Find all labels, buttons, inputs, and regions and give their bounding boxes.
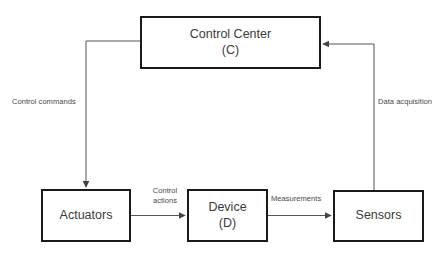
node-actuators[interactable]: Actuators	[41, 189, 131, 242]
edge-label-measurements: Measurements	[271, 194, 321, 204]
node-device-title: Device	[208, 200, 246, 215]
node-control-center-subtitle: (C)	[222, 43, 239, 58]
edge-data-acquisition	[323, 44, 374, 190]
control-loop-diagram: Control Center (C) Actuators Device (D) …	[0, 0, 446, 257]
edge-label-control-actions: Control actions	[145, 186, 185, 206]
node-sensors-title: Sensors	[356, 208, 402, 223]
edge-control-commands	[86, 41, 140, 187]
node-control-center-title: Control Center	[190, 27, 271, 42]
edge-label-data-acquisition: Data acquisition	[378, 97, 432, 107]
node-device[interactable]: Device (D)	[187, 189, 268, 242]
node-control-center[interactable]: Control Center (C)	[140, 16, 321, 69]
edge-label-control-actions-line2: actions	[145, 196, 185, 206]
node-actuators-title: Actuators	[60, 208, 113, 223]
edge-label-control-actions-line1: Control	[145, 186, 185, 196]
node-sensors[interactable]: Sensors	[333, 190, 424, 242]
node-device-subtitle: (D)	[219, 216, 236, 231]
edge-label-control-commands: Control commands	[12, 97, 76, 107]
